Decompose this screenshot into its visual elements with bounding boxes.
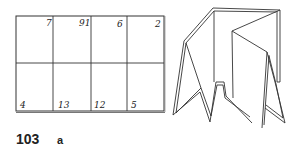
diagram-canvas: 7 91 6 2 4 13 12 5 [0, 0, 299, 156]
cell-number-top-3: 6 [117, 19, 123, 29]
cell-number-top-4: 2 [154, 19, 161, 29]
cell-number-top-1: 7 [46, 18, 52, 28]
cell-number-bottom-2: 13 [58, 100, 70, 110]
cell-number-top-2: 91 [79, 18, 90, 28]
cell-number-bottom-3: 12 [94, 100, 106, 110]
folded-accordion-model [173, 8, 285, 128]
flat-grid-sheet [16, 16, 165, 113]
figure-label: a [57, 134, 63, 146]
cell-number-bottom-4: 5 [131, 100, 137, 110]
figure-number: 103 [16, 131, 39, 147]
cell-number-bottom-1: 4 [19, 100, 26, 110]
